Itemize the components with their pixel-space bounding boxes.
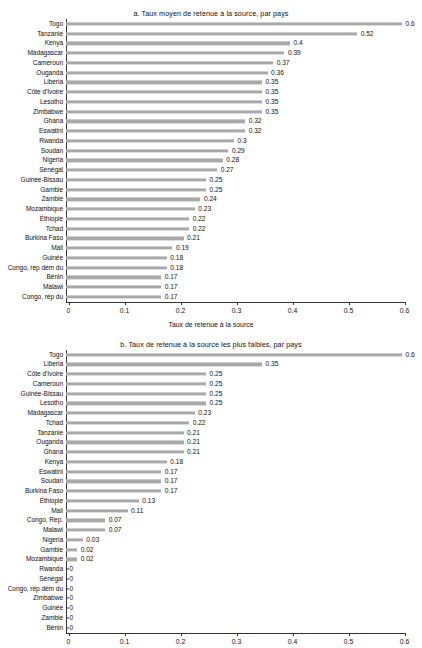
bar xyxy=(66,490,161,493)
bar xyxy=(66,412,195,415)
bar-row: Guinée-Bissau0.25 xyxy=(0,175,422,185)
bar-value-label: 0.35 xyxy=(266,108,279,116)
panel-b-title: b. Taux de retenue à la source les plus … xyxy=(0,340,422,350)
bar-value-label: 0.22 xyxy=(193,215,206,223)
panel-b-bar-rows: Togo0.6Liberia0.35Côte d'Ivoire0.25Camer… xyxy=(0,350,422,633)
category-label: Kenya xyxy=(0,458,66,466)
bar-track: 0 xyxy=(66,564,422,574)
category-label: Madagascar xyxy=(0,409,66,417)
bar-track: 0.02 xyxy=(66,555,422,565)
bar-row: Côte d'Ivoire0.25 xyxy=(0,369,422,379)
bar-track: 0.25 xyxy=(66,399,422,409)
bar-row: Gambie0.02 xyxy=(0,545,422,555)
x-tick-mark xyxy=(405,633,406,636)
bar-value-label: 0.24 xyxy=(204,195,217,203)
bar-track: 0.03 xyxy=(66,535,422,545)
bar xyxy=(66,363,262,366)
bar-track: 0.22 xyxy=(66,214,422,224)
bar-value-label: 0.11 xyxy=(131,507,143,515)
bar-track: 0.18 xyxy=(66,263,422,273)
bar-value-label: 0.13 xyxy=(142,497,155,505)
category-label: Éthiopie xyxy=(0,497,66,505)
bar-track: 0.37 xyxy=(66,58,422,68)
bar-row: Lesotho0.35 xyxy=(0,97,422,107)
bar-track: 0.18 xyxy=(66,253,422,263)
category-label: Lesotho xyxy=(0,399,66,407)
bar-track: 0.6 xyxy=(66,19,422,29)
bar-row: Zimbabwe0 xyxy=(0,594,422,604)
bar-row: Ghana0.32 xyxy=(0,117,422,127)
bar-track: 0.25 xyxy=(66,175,422,185)
bar-track: 0.27 xyxy=(66,165,422,175)
bar-value-label: 0 xyxy=(70,575,74,583)
category-label: Côte d'Ivoire xyxy=(0,370,66,378)
bar-track: 0.17 xyxy=(66,477,422,487)
category-label: Mali xyxy=(0,507,66,515)
category-label: Soudan xyxy=(0,477,66,485)
x-tick-label: 0.1 xyxy=(120,637,129,646)
bar-track: 0.24 xyxy=(66,195,422,205)
x-tick-label: 0.5 xyxy=(344,306,353,315)
category-label: Guinée-Bissau xyxy=(0,176,66,184)
category-label: Togo xyxy=(0,20,66,28)
category-label: Congo, rép dém du xyxy=(0,264,66,272)
bar xyxy=(66,22,402,25)
bar-row: Malawi0.07 xyxy=(0,525,422,535)
category-label: Zimbabwe xyxy=(0,594,66,602)
bar xyxy=(66,52,284,55)
bar-track: 0.17 xyxy=(66,467,422,477)
bar-value-label: 0.25 xyxy=(210,370,223,378)
category-label: Tchad xyxy=(0,225,66,233)
bar-value-label: 0.27 xyxy=(221,166,234,174)
x-tick-mark xyxy=(69,633,70,636)
bar-track: 0.19 xyxy=(66,243,422,253)
category-label: Lesotho xyxy=(0,98,66,106)
bar xyxy=(66,421,189,424)
bar-track: 0 xyxy=(66,594,422,604)
bar-row: Zambie0 xyxy=(0,613,422,623)
bar-row: Lesotho0.25 xyxy=(0,399,422,409)
bar-track: 0.35 xyxy=(66,78,422,88)
y-tick-mark xyxy=(66,627,69,628)
bar-track: 0.3 xyxy=(66,136,422,146)
bar-row: Mali0.19 xyxy=(0,243,422,253)
category-label: Gambie xyxy=(0,186,66,194)
bar xyxy=(66,149,228,152)
panel-gap xyxy=(0,330,422,340)
bar xyxy=(66,91,262,94)
bar-row: Malawi0.17 xyxy=(0,282,422,292)
panel-b-x-axis: 00.10.20.30.40.50.6 xyxy=(66,633,422,648)
x-tick-label: 0.3 xyxy=(232,306,241,315)
bar xyxy=(66,169,217,172)
bar-row: Kenya0.18 xyxy=(0,457,422,467)
bar xyxy=(66,558,77,561)
bar-value-label: 0.25 xyxy=(210,390,223,398)
bar-row: Rwanda0.3 xyxy=(0,136,422,146)
bar xyxy=(66,110,262,113)
bar-row: Côte d'Ivoire0.35 xyxy=(0,87,422,97)
bar-row: Eswatini0.17 xyxy=(0,467,422,477)
category-label: Côte d'Ivoire xyxy=(0,88,66,96)
x-tick-label: 0.4 xyxy=(288,637,297,646)
bar-value-label: 0.18 xyxy=(170,264,183,272)
category-label: Congo, rép du xyxy=(0,293,66,301)
bar-value-label: 0.23 xyxy=(198,205,211,213)
x-tick-mark xyxy=(237,302,238,305)
bar xyxy=(66,247,172,250)
category-label: Nigeria xyxy=(0,536,66,544)
x-tick-mark xyxy=(125,633,126,636)
bar-value-label: 0.17 xyxy=(165,468,178,476)
bar-track: 0.11 xyxy=(66,506,422,516)
bar-value-label: 0.6 xyxy=(406,20,415,28)
category-label: Tanzanie xyxy=(0,30,66,38)
bar-track: 0.35 xyxy=(66,107,422,117)
bar-track: 0.35 xyxy=(66,360,422,370)
bar-value-label: 0.4 xyxy=(294,39,303,47)
x-tick-mark xyxy=(349,633,350,636)
bar-value-label: 0.39 xyxy=(288,49,301,57)
bar-track: 0.4 xyxy=(66,39,422,49)
bar-value-label: 0.17 xyxy=(165,273,178,281)
bar-value-label: 0.32 xyxy=(249,117,262,125)
bar-value-label: 0 xyxy=(70,604,74,612)
bar-track: 0.17 xyxy=(66,273,422,283)
